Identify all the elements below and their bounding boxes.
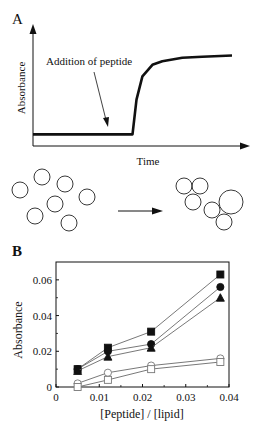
process-arrow-head-icon: [152, 208, 163, 215]
a-x-axis-arrow-icon: [240, 143, 250, 150]
b-tick-labels: 00.010.020.030.0400.020.040.06: [33, 274, 239, 403]
a-x-label: Time: [137, 155, 160, 167]
data-point-open-square: [148, 366, 155, 373]
vesicle-before: [34, 169, 50, 185]
a-annotation-arrowhead-icon: [103, 117, 109, 127]
b-x-tick-label: 0: [53, 391, 59, 403]
data-point-open-square: [104, 376, 111, 383]
b-series-group: [74, 271, 225, 391]
data-point-filled-triangle: [216, 294, 224, 302]
vesicle-before: [57, 176, 73, 192]
vesicle-after: [192, 178, 208, 194]
vesicle-after: [204, 202, 220, 218]
vesicle-before: [12, 182, 28, 198]
b-x-tick-label: 0.03: [176, 391, 196, 403]
vesicle-after-fused: [219, 190, 243, 214]
data-point-filled-square: [148, 328, 155, 335]
data-point-open-circle: [104, 369, 111, 376]
a-absorbance-curve: [33, 56, 232, 135]
vesicle-after: [185, 194, 201, 210]
a-annotation-arrow: [94, 72, 106, 120]
data-point-filled-square: [217, 271, 224, 278]
a-annotation: Addition of peptide: [46, 55, 132, 67]
b-x-tick-label: 0.01: [90, 391, 109, 403]
b-x-label: [Peptide] / [lipid]: [100, 407, 183, 421]
figure: A Absorbance Time Addition of peptide B …: [0, 0, 258, 430]
vesicle-before: [61, 215, 77, 231]
b-y-tick-label: 0.02: [33, 345, 52, 357]
vesicle-after: [176, 178, 192, 194]
b-y-tick-label: 0.04: [33, 310, 53, 322]
data-point-open-square: [217, 359, 224, 366]
vesicle-before: [27, 208, 43, 224]
b-y-label: Absorbance: [11, 301, 25, 358]
b-y-tick-label: 0: [47, 381, 53, 393]
vesicle-diagram: [12, 169, 243, 231]
b-plot-frame: [56, 262, 229, 387]
data-point-open-square: [74, 384, 81, 391]
panel-a-label: A: [12, 11, 23, 27]
panel-b-label: B: [12, 243, 22, 259]
data-point-filled-circle: [217, 283, 224, 290]
a-y-axis-arrow-icon: [30, 24, 37, 34]
a-y-label: Absorbance: [15, 62, 27, 115]
series-line-filled-square: [78, 275, 221, 370]
vesicle-after: [216, 214, 232, 230]
vesicle-before: [79, 189, 95, 205]
vesicle-before: [47, 196, 63, 212]
b-y-tick-label: 0.06: [33, 274, 53, 286]
b-x-tick-label: 0.02: [133, 391, 152, 403]
b-x-tick-label: 0.04: [219, 391, 239, 403]
series-filled-square: [74, 271, 224, 373]
